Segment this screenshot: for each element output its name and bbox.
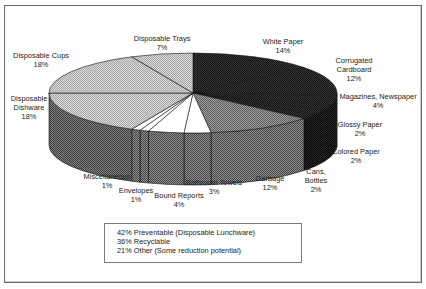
pie-side-bound-reports <box>149 131 184 185</box>
label-glossy-paper: Glossy Paper 2% <box>338 120 382 138</box>
label-miscellaneous: Miscellaneous 1% <box>84 172 131 190</box>
pie-side-cans-bottles <box>304 114 315 170</box>
label-disposable-dishware: Disposable Dishware 18% <box>11 94 48 121</box>
label-colored-paper: Colored Paper 2% <box>332 147 380 165</box>
legend-recyclable: 36% Recyclable <box>105 237 301 246</box>
label-magazines-newspaper: Magazines, Newspaper 4% <box>339 92 416 110</box>
label-bound-reports: Bound Reports 4% <box>154 191 203 209</box>
legend-other: 21% Other (Some reduction potential) <box>105 246 301 255</box>
pie-side-miscellaneous <box>132 129 140 182</box>
summary-legend: 42% Preventable (Disposable Lunchware) 3… <box>104 223 302 263</box>
pie-top <box>49 53 337 133</box>
label-garbage: Garbage 12% <box>256 174 285 192</box>
label-cans-bottles: Cans, Bottles 2% <box>305 167 328 194</box>
pie-side-glossy-paper <box>323 105 330 162</box>
pie-side-colored-paper <box>315 110 324 166</box>
pie-side-envelopes <box>140 130 149 183</box>
legend-preventable: 42% Preventable (Disposable Lunchware) <box>105 224 301 237</box>
label-white-paper: White Paper 14% <box>263 37 304 55</box>
label-disposable-trays: Disposable Trays 7% <box>134 34 191 52</box>
label-disposable-cups: Disposable Cups 18% <box>13 51 69 69</box>
label-corrugated-cardboard: Corrugated Cardboard 12% <box>336 56 373 83</box>
